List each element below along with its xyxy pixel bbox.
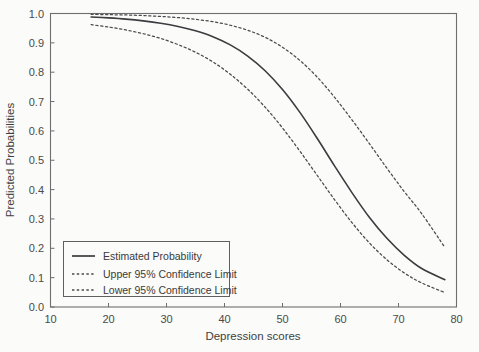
x-tick-label: 40 [218,313,230,325]
legend-label-upper-confidence-limit: Upper 95% Confidence Limit [103,268,237,280]
figure-page: 0.00.10.20.30.40.50.60.70.80.91.0 102030… [0,0,479,352]
x-tick-label: 50 [276,313,288,325]
predicted-probabilities-chart: 0.00.10.20.30.40.50.60.70.80.91.0 102030… [0,0,479,352]
y-tick-label: 0.2 [29,242,44,254]
chart-legend: Estimated Probability Upper 95% Confiden… [64,242,237,297]
y-tick-label: 1.0 [29,8,44,20]
y-tick-label: 0.4 [29,184,44,196]
chart-background [0,0,479,352]
x-tick-label: 10 [44,313,56,325]
y-tick-label: 0.8 [29,66,44,78]
legend-label-estimated-probability: Estimated Probability [103,250,202,262]
y-tick-label: 0.6 [29,125,44,137]
x-axis-title: Depression scores [205,330,300,342]
legend-label-lower-confidence-limit: Lower 95% Confidence Limit [103,284,237,296]
y-tick-label: 0.0 [29,301,44,313]
y-tick-label: 0.9 [29,37,44,49]
y-tick-label: 0.7 [29,96,44,108]
x-tick-label: 20 [102,313,114,325]
x-tick-label: 60 [334,313,346,325]
y-axis-title: Predicted Probabilities [4,103,16,218]
y-tick-label: 0.1 [29,272,44,284]
x-tick-label: 70 [392,313,404,325]
y-tick-label: 0.5 [29,154,44,166]
x-tick-label: 30 [160,313,172,325]
x-tick-label: 80 [450,313,462,325]
y-tick-label: 0.3 [29,213,44,225]
